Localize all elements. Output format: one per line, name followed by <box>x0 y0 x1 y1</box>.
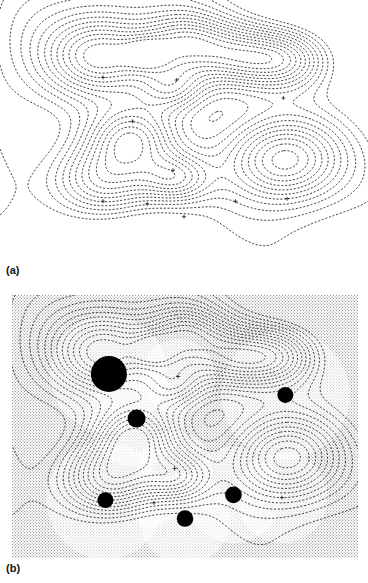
panel-b-contour-plot <box>12 295 358 558</box>
contour-level-10 <box>69 28 291 85</box>
peak-cross-marker <box>182 215 186 219</box>
contour-level-5 <box>38 10 341 201</box>
panel-a-contour-plot <box>0 0 368 258</box>
panel-a-label: (a) <box>6 264 19 276</box>
peak-cross-marker <box>101 75 105 79</box>
contour-level-7 <box>82 108 199 193</box>
peak-cross-marker <box>171 168 175 172</box>
peak-cross-marker <box>131 119 135 123</box>
peak-cross-marker <box>281 96 285 100</box>
contour-level-10 <box>105 127 175 179</box>
contour-level-1 <box>0 149 16 215</box>
peak-blob <box>277 387 293 403</box>
contour-level-1 <box>209 111 222 121</box>
contour-level-11 <box>76 32 284 73</box>
peak-blob <box>177 510 194 527</box>
contour-level-10 <box>262 144 308 176</box>
peak-markers <box>101 75 289 218</box>
peak-cross-marker <box>285 197 289 201</box>
contour-level-8 <box>248 134 322 185</box>
peak-blob <box>225 487 242 504</box>
peak-cross-marker <box>145 202 149 206</box>
contour-lines <box>0 0 368 246</box>
contour-level-1 <box>0 0 4 9</box>
peak-blob <box>97 492 113 508</box>
contour-level-8 <box>57 22 301 99</box>
peak-blob <box>128 410 146 428</box>
panel-b-svg <box>12 295 358 558</box>
contour-level-9 <box>255 139 315 181</box>
contour-figure: (a) (b) <box>0 0 368 583</box>
contour-level-11 <box>114 133 142 163</box>
contour-level-9 <box>63 25 296 93</box>
peak-blob <box>91 356 127 392</box>
contour-level-11 <box>272 151 298 169</box>
peak-cross-marker <box>175 78 179 82</box>
peak-cross-marker <box>101 199 105 203</box>
contour-level-9 <box>96 122 185 185</box>
panel-b-label: (b) <box>6 562 20 574</box>
contour-level-6 <box>234 125 334 194</box>
contour-level-8 <box>89 116 193 188</box>
panel-a-svg <box>0 0 368 258</box>
contour-level-3 <box>21 0 356 211</box>
